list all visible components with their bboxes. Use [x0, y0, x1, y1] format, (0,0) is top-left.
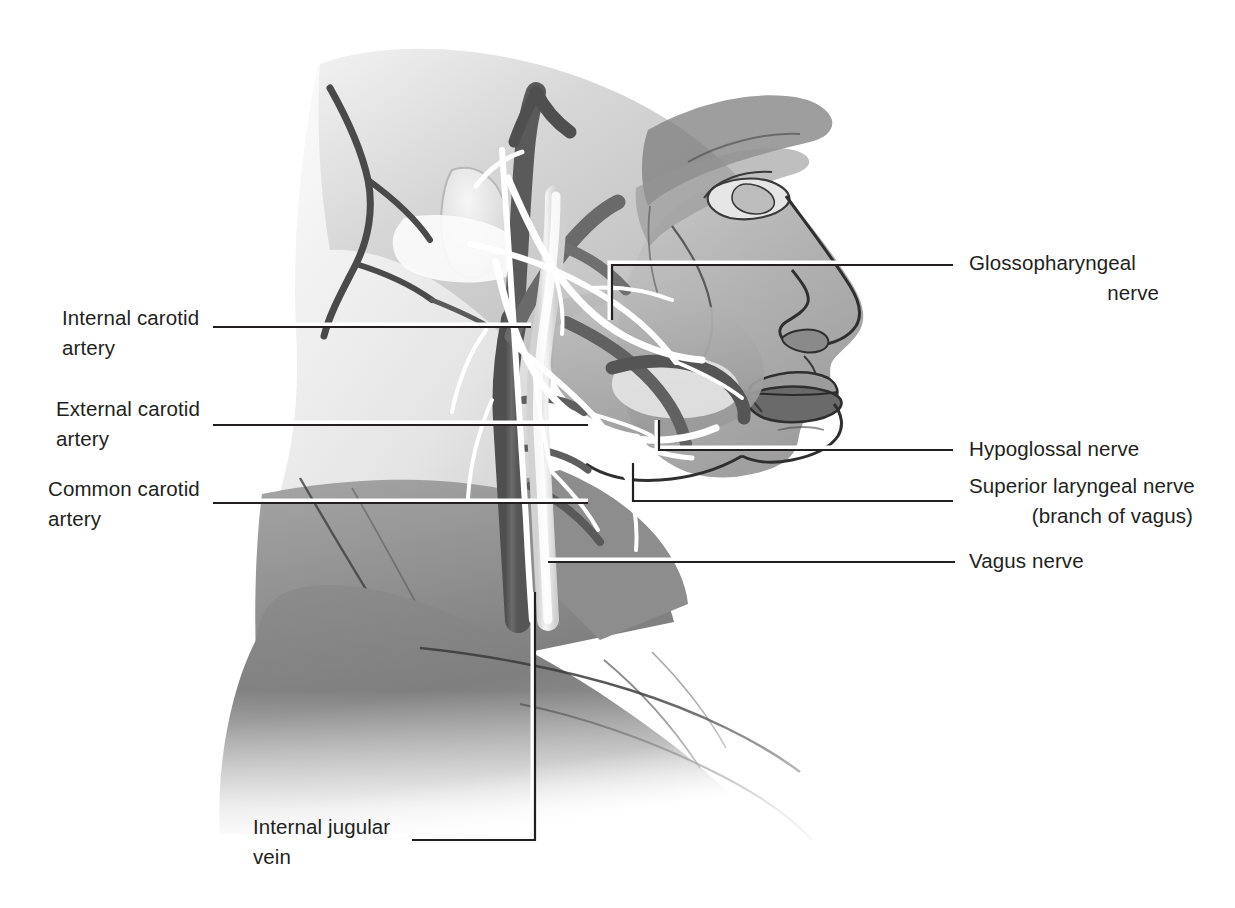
label-external-carotid-artery: External carotid artery [56, 394, 200, 454]
label-superior-laryngeal-nerve: Superior laryngeal nerve (branch of vagu… [969, 471, 1193, 531]
label-glossopharyngeal-nerve: Glossopharyngeal nerve [969, 248, 1159, 308]
label-common-carotid-artery-line2: artery [48, 504, 200, 534]
label-internal-carotid-artery-line1: Internal carotid [62, 306, 199, 329]
leader-common-carotid-artery [213, 501, 588, 503]
label-external-carotid-artery-line1: External carotid [56, 397, 200, 420]
anatomy-figure: Internal carotid artery External carotid… [0, 0, 1235, 908]
label-superior-laryngeal-nerve-line2: (branch of vagus) [969, 501, 1193, 531]
label-superior-laryngeal-nerve-line1: Superior laryngeal nerve [969, 474, 1195, 497]
label-hypoglossal-nerve: Hypoglossal nerve [969, 434, 1139, 464]
label-external-carotid-artery-line2: artery [56, 424, 200, 454]
label-internal-jugular-vein-line2: vein [253, 842, 390, 872]
label-common-carotid-artery-line1: Common carotid [48, 477, 200, 500]
leader-internal-carotid-artery [213, 325, 531, 327]
leader-vagus-nerve [548, 560, 955, 562]
label-vagus-nerve-line1: Vagus nerve [969, 549, 1084, 572]
leader-external-carotid-artery [213, 423, 588, 425]
label-hypoglossal-nerve-line1: Hypoglossal nerve [969, 437, 1139, 460]
label-vagus-nerve: Vagus nerve [969, 546, 1084, 576]
label-internal-jugular-vein: Internal jugular vein [253, 812, 390, 872]
label-internal-carotid-artery-line2: artery [62, 333, 199, 363]
label-internal-carotid-artery: Internal carotid artery [62, 303, 199, 363]
label-glossopharyngeal-nerve-line2: nerve [969, 278, 1159, 308]
label-internal-jugular-vein-line1: Internal jugular [253, 815, 390, 838]
label-common-carotid-artery: Common carotid artery [48, 474, 200, 534]
label-glossopharyngeal-nerve-line1: Glossopharyngeal [969, 251, 1136, 274]
